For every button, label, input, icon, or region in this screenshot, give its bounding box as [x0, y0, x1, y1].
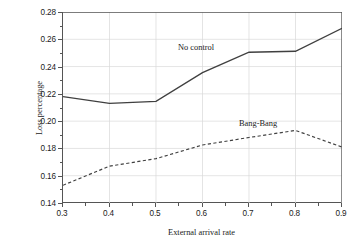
y-tick-mark-minor — [60, 108, 63, 109]
y-tick-mark — [58, 121, 62, 122]
x-axis-label: External arrival rate — [62, 228, 341, 237]
x-tick-mark — [62, 203, 63, 207]
x-tick-mark — [109, 203, 110, 207]
x-tick-mark-minor — [225, 203, 226, 206]
y-axis-label-container: Loss percentage — [14, 12, 34, 203]
y-tick-mark — [58, 12, 62, 13]
x-tick-mark — [155, 203, 156, 207]
x-tick-label: 0.9 — [335, 209, 346, 218]
x-tick-label: 0.6 — [196, 209, 207, 218]
x-tick-mark — [248, 203, 249, 207]
plot-area — [62, 12, 341, 203]
y-tick-label: 0.14 — [40, 199, 56, 208]
x-tick-mark — [341, 203, 342, 207]
y-tick-mark-minor — [60, 80, 63, 81]
y-tick-mark-minor — [60, 189, 63, 190]
y-tick-label: 0.20 — [40, 117, 56, 126]
x-tick-label: 0.3 — [56, 209, 67, 218]
x-tick-mark — [295, 203, 296, 207]
y-tick-label: 0.16 — [40, 171, 56, 180]
x-tick-mark-minor — [85, 203, 86, 206]
x-tick-mark-minor — [271, 203, 272, 206]
x-tick-label: 0.7 — [242, 209, 253, 218]
y-tick-mark-minor — [60, 53, 63, 54]
x-tick-mark — [202, 203, 203, 207]
x-tick-mark-minor — [178, 203, 179, 206]
chart-figure: Loss percentage 0.140.160.180.200.220.24… — [0, 0, 360, 251]
x-tick-mark-minor — [318, 203, 319, 206]
y-tick-mark — [58, 39, 62, 40]
y-tick-label: 0.18 — [40, 144, 56, 153]
y-tick-label: 0.22 — [40, 89, 56, 98]
y-tick-label: 0.28 — [40, 8, 56, 17]
y-tick-mark-minor — [60, 162, 63, 163]
y-tick-mark — [58, 94, 62, 95]
x-tick-label: 0.8 — [289, 209, 300, 218]
gridlines — [63, 12, 342, 203]
y-tick-mark-minor — [60, 26, 63, 27]
series-annotation-no-control: No control — [178, 43, 214, 52]
y-tick-label: 0.24 — [40, 62, 56, 71]
y-tick-mark-minor — [60, 135, 63, 136]
y-tick-mark — [58, 176, 62, 177]
x-tick-mark-minor — [132, 203, 133, 206]
series-annotation-bang-bang: Bang-Bang — [239, 119, 277, 128]
y-tick-mark — [58, 67, 62, 68]
x-tick-label: 0.5 — [149, 209, 160, 218]
y-tick-mark — [58, 148, 62, 149]
y-tick-label: 0.26 — [40, 35, 56, 44]
x-tick-label: 0.4 — [103, 209, 114, 218]
plot-svg — [63, 12, 342, 203]
